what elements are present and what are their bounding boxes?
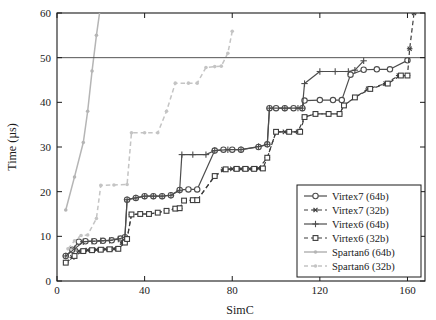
legend-label-3: Virtex6 (32b) <box>332 233 389 245</box>
legend-label-4: Spartan6 (64b) <box>332 247 395 259</box>
x-tick-label: 80 <box>227 284 239 296</box>
x-axis-label: SimC <box>226 303 253 317</box>
legend-label-1: Virtex7 (32b) <box>332 205 389 217</box>
y-tick-label: 30 <box>40 141 52 153</box>
x-tick-label: 0 <box>54 284 60 296</box>
legend-label-0: Virtex7 (64b) <box>332 191 389 203</box>
y-tick-label: 20 <box>40 186 52 198</box>
chart-canvas: 040801201600102030405060 SimC Time (µs) … <box>0 0 436 320</box>
y-tick-label: 10 <box>40 230 52 242</box>
y-axis-label: Time (µs) <box>5 123 19 170</box>
x-tick-label: 160 <box>399 284 416 296</box>
y-tick-label: 40 <box>40 96 52 108</box>
y-tick-label: 50 <box>40 52 52 64</box>
legend-label-2: Virtex6 (64b) <box>332 219 389 231</box>
chart-figure: 040801201600102030405060 SimC Time (µs) … <box>0 0 436 320</box>
y-tick-label: 0 <box>46 275 52 287</box>
y-tick-label: 60 <box>40 7 52 19</box>
x-tick-label: 40 <box>139 284 151 296</box>
legend[interactable]: Virtex7 (64b)Virtex7 (32b)Virtex6 (64b)V… <box>297 185 421 277</box>
legend-label-5: Spartan6 (32b) <box>332 261 395 273</box>
x-tick-label: 120 <box>312 284 329 296</box>
